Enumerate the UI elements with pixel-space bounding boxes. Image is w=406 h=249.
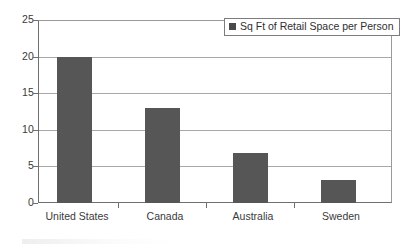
bar-australia xyxy=(233,153,268,203)
y-axis-tick-label: 5 xyxy=(28,159,34,171)
y-axis-tick-mark xyxy=(33,203,38,204)
bar-canada xyxy=(145,108,180,203)
y-axis-tick-label: 15 xyxy=(22,86,34,98)
x-axis-label-canada: Canada xyxy=(126,210,204,222)
x-axis-label-sweden: Sweden xyxy=(302,210,380,222)
x-axis-tick-mark xyxy=(206,203,207,208)
x-axis-label-australia: Australia xyxy=(214,210,292,222)
x-axis-label-united-states: United States xyxy=(38,210,116,222)
y-axis-tick-label: 10 xyxy=(22,123,34,135)
chart-legend: Sq Ft of Retail Space per Person xyxy=(224,18,400,36)
x-axis-tick-mark xyxy=(294,203,295,208)
legend-entry-label: Sq Ft of Retail Space per Person xyxy=(240,21,394,32)
y-axis-tick-label: 20 xyxy=(22,50,34,62)
bar-chart-figure: 25 20 15 10 5 0 United States Canada Aus… xyxy=(0,0,406,249)
x-axis-tick-mark xyxy=(118,203,119,208)
y-axis-tick-label: 25 xyxy=(22,13,34,25)
y-axis-tick-label: 0 xyxy=(28,196,34,208)
scan-artifact xyxy=(22,239,172,244)
legend-swatch-icon xyxy=(229,23,236,30)
bar-united-states xyxy=(57,57,92,203)
bar-sweden xyxy=(321,180,356,203)
